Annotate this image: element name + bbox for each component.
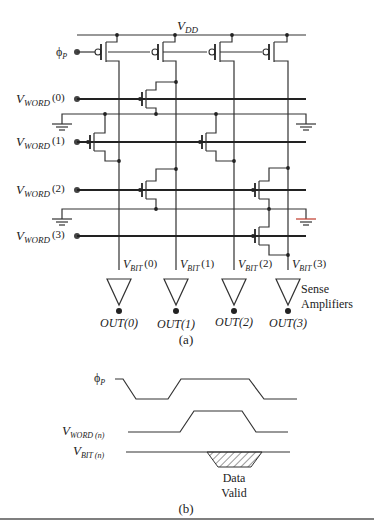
ground-line-0 <box>52 114 316 130</box>
vword-waveform <box>128 411 288 432</box>
nmos-cell-w0-b1 <box>138 80 178 116</box>
bit-label-2: VBIT(2) <box>238 257 273 273</box>
caption-a: (a) <box>179 332 193 347</box>
pmos-precharge-3 <box>263 33 289 270</box>
nmos-cell-w2-b1 <box>138 167 178 211</box>
out-label-2: OUT(2) <box>215 315 253 329</box>
bit-label-1: VBIT(1) <box>180 257 215 273</box>
vdd-label: VDD <box>177 18 198 35</box>
svg-text:VWORD(1): VWORD(1) <box>16 134 65 151</box>
data-valid-label-line2: Valid <box>221 486 246 500</box>
timing-label-vbit: VBIT (n) <box>73 443 104 460</box>
figure-b-timing: ϕP VWORD (n) VBIT (n) Data Valid (b) <box>62 371 297 516</box>
pmos-precharge-1 <box>152 33 177 270</box>
phi-p-waveform <box>115 379 297 399</box>
phi-p-label: ϕP <box>56 45 67 61</box>
timing-label-phi-p: ϕP <box>94 371 105 387</box>
out-label-1: OUT(1) <box>157 317 195 331</box>
sense-amp-1 <box>164 279 188 314</box>
word-line-3: VWORD(3) <box>16 228 306 245</box>
svg-text:VWORD(0): VWORD(0) <box>16 91 65 108</box>
figure-a: VDD ϕP <box>16 18 353 347</box>
sense-amp-3 <box>276 279 300 314</box>
nmos-cell-w1-b2 <box>198 112 236 163</box>
rom-circuit-diagram: VDD ϕP <box>0 0 374 524</box>
bit-label-3: VBIT(3) <box>292 257 327 273</box>
caption-b: (b) <box>178 501 193 516</box>
bit-label-0: VBIT(0) <box>123 257 158 273</box>
word-line-0: VWORD(0) <box>16 91 306 108</box>
svg-text:VWORD(2): VWORD(2) <box>16 182 65 199</box>
word-line-2: VWORD(2) <box>16 182 306 199</box>
data-valid-label-line1: Data <box>223 471 246 485</box>
out-label-3: OUT(3) <box>269 316 307 330</box>
sense-amp-label-line1: Sense <box>301 282 329 296</box>
sense-amp-label-line2: Amplifiers <box>301 297 353 311</box>
timing-label-vword: VWORD (n) <box>62 423 105 440</box>
nmos-cell-w2-b3 <box>251 166 290 211</box>
svg-text:VWORD(3): VWORD(3) <box>16 228 65 245</box>
data-valid-region <box>207 452 262 467</box>
out-label-0: OUT(0) <box>100 316 138 330</box>
sense-amp-2 <box>222 279 246 314</box>
sense-amp-0 <box>107 279 131 314</box>
word-line-1: VWORD(1) <box>16 134 306 151</box>
ground-line-1 <box>52 209 316 225</box>
nmos-cell-w3-b3 <box>251 209 290 257</box>
nmos-cell-w1-b0 <box>86 112 121 163</box>
